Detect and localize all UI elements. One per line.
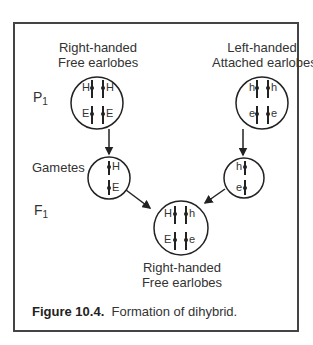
allele: e bbox=[271, 107, 277, 119]
allele: E bbox=[82, 107, 89, 119]
allele: h bbox=[189, 207, 195, 219]
allele: H bbox=[164, 207, 172, 219]
allele: h bbox=[236, 160, 242, 172]
f1-phenotype-line1: Right-handed bbox=[140, 260, 224, 275]
allele: H bbox=[82, 81, 90, 93]
allele: H bbox=[106, 81, 114, 93]
allele: h bbox=[271, 81, 277, 93]
allele: H bbox=[112, 160, 120, 172]
f1-phenotype: Right-handed Free earlobes bbox=[140, 260, 224, 290]
caption-text: Formation of dihybrid. bbox=[111, 304, 237, 319]
allele: h bbox=[249, 81, 255, 93]
left-parent-cell bbox=[71, 77, 123, 129]
figure-caption: Figure 10.4. Formation of dihybrid. bbox=[32, 304, 237, 319]
allele: e bbox=[189, 233, 195, 245]
allele: e bbox=[249, 107, 255, 119]
f1-phenotype-line2: Free earlobes bbox=[140, 275, 224, 290]
allele: E bbox=[106, 107, 113, 119]
right-parent-cell bbox=[236, 77, 288, 129]
caption-label: Figure 10.4. bbox=[32, 304, 104, 319]
cross-diagram bbox=[0, 0, 313, 345]
allele: E bbox=[164, 233, 171, 245]
allele: E bbox=[112, 181, 119, 193]
f1-cell bbox=[154, 201, 208, 255]
allele: e bbox=[236, 181, 242, 193]
